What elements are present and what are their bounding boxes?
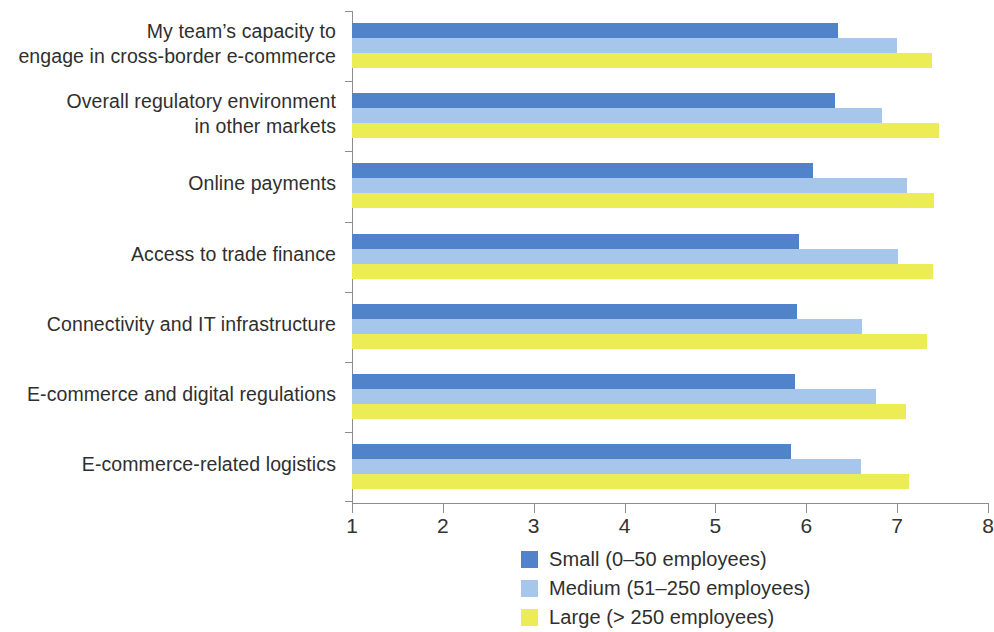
category-label: E-commerce and digital regulations: [27, 382, 336, 407]
legend-label: Medium (51–250 employees): [549, 577, 811, 600]
legend-item: Medium (51–250 employees): [521, 574, 811, 603]
y-axis-tick: [345, 222, 353, 223]
y-axis-tick: [345, 151, 353, 152]
x-axis-tick: [806, 504, 807, 513]
x-axis-tick: [534, 504, 535, 513]
x-axis-tick-label: 8: [982, 514, 994, 538]
bar: [352, 23, 838, 38]
bar: [352, 108, 882, 123]
bar: [352, 444, 791, 459]
x-axis-tick: [897, 504, 898, 513]
legend-swatch-icon: [521, 609, 538, 626]
bar: [352, 304, 797, 319]
x-axis-tick-label: 4: [619, 514, 631, 538]
legend-item: Small (0–50 employees): [521, 545, 811, 574]
bar: [352, 389, 876, 404]
bar: [352, 163, 813, 178]
x-axis-tick: [988, 504, 989, 513]
legend-item: Large (> 250 employees): [521, 603, 811, 632]
x-axis-tick: [352, 504, 353, 513]
bar: [352, 334, 927, 349]
bar: [352, 234, 799, 249]
category-label: Connectivity and IT infrastructure: [47, 312, 336, 337]
legend-swatch-icon: [521, 580, 538, 597]
x-axis-tick-label: 5: [710, 514, 722, 538]
bar: [352, 93, 835, 108]
y-axis-tick: [345, 11, 353, 12]
category-label: Overall regulatory environment in other …: [66, 89, 336, 139]
x-axis-tick-label: 1: [346, 514, 358, 538]
bar: [352, 38, 897, 53]
x-axis-tick-label: 6: [800, 514, 812, 538]
bar: [352, 123, 939, 138]
bar: [352, 459, 861, 474]
bar: [352, 374, 795, 389]
legend-label: Small (0–50 employees): [549, 548, 767, 571]
chart-legend: Small (0–50 employees)Medium (51–250 emp…: [521, 545, 811, 632]
x-axis-tick: [443, 504, 444, 513]
x-axis-tick-label: 2: [437, 514, 449, 538]
bar: [352, 404, 906, 419]
y-axis-tick: [345, 362, 353, 363]
x-axis-tick-label: 3: [528, 514, 540, 538]
y-axis-tick: [345, 432, 353, 433]
y-axis-tick: [345, 292, 353, 293]
category-label: My team’s capacity to engage in cross-bo…: [18, 19, 336, 69]
bar: [352, 319, 862, 334]
bar: [352, 193, 934, 208]
y-axis-tick: [345, 501, 353, 502]
y-axis-tick: [345, 81, 353, 82]
category-label: E-commerce-related logistics: [82, 452, 336, 477]
category-label: Online payments: [188, 171, 336, 196]
bar: [352, 264, 933, 279]
x-axis-line: [352, 503, 989, 504]
bar: [352, 474, 909, 489]
x-axis-tick-label: 7: [891, 514, 903, 538]
bar: [352, 53, 932, 68]
x-axis-tick: [715, 504, 716, 513]
legend-swatch-icon: [521, 551, 538, 568]
bar: [352, 249, 898, 264]
bar: [352, 178, 907, 193]
legend-label: Large (> 250 employees): [549, 606, 774, 629]
x-axis-tick: [625, 504, 626, 513]
category-label: Access to trade finance: [131, 242, 336, 267]
